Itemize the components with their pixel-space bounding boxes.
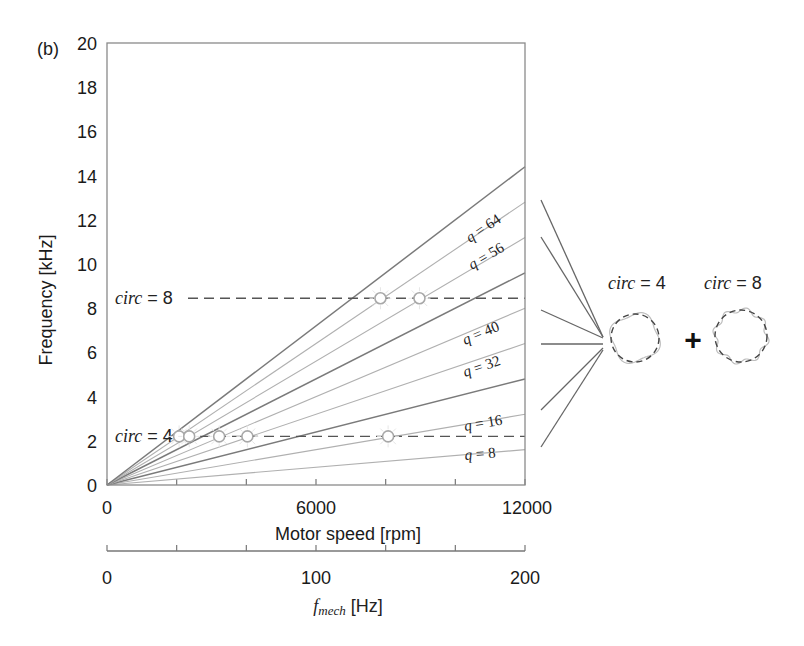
y-tick-label: 8 <box>87 299 97 319</box>
intersection-marker <box>369 287 391 309</box>
x2-tick-label: 200 <box>510 568 540 588</box>
mode-shape-circ8-icon <box>713 308 769 364</box>
intersection-marker <box>178 425 200 447</box>
series-label-q8: q = 8 <box>464 444 496 463</box>
x2-tick-label: 100 <box>301 568 331 588</box>
series-line-q56 <box>107 237 525 485</box>
y-tick-label: 16 <box>77 122 97 142</box>
y-tick-label: 4 <box>87 388 97 408</box>
series-label-q40: q = 40 <box>460 318 502 348</box>
x-tick-label: 6000 <box>296 498 336 518</box>
intersection-marker <box>408 287 430 309</box>
series-labels: q = 8q = 16q = 32q = 40q = 56q = 64 <box>460 210 507 463</box>
y-tick-label: 6 <box>87 343 97 363</box>
y-tick-label: 14 <box>77 167 97 187</box>
mode-shape-label-circ8: circ = 8 <box>704 273 762 293</box>
y-axis-title: Frequency [kHz] <box>36 234 56 365</box>
x-axis-title: Motor speed [rpm] <box>275 524 421 544</box>
secondary-x-axis: 0100200 <box>102 545 540 588</box>
y-tick-label: 12 <box>77 211 97 231</box>
x2-tick-label: 0 <box>102 568 112 588</box>
y-tick-label: 0 <box>87 476 97 496</box>
series-line-q16 <box>107 414 525 485</box>
y-tick-label: 18 <box>77 78 97 98</box>
y-tick-label: 2 <box>87 432 97 452</box>
chart-canvas: (b) Frequency [kHz] 02468101214161820 06… <box>0 0 804 646</box>
y-tick-label: 20 <box>77 34 97 54</box>
series-label-q32: q = 32 <box>461 352 503 379</box>
intersection-marker <box>236 425 258 447</box>
x-tick-label: 0 <box>102 498 112 518</box>
panel-label: (b) <box>37 39 59 59</box>
plus-icon: + <box>684 323 702 356</box>
y-axis-ticks: 02468101214161820 <box>77 34 97 496</box>
mode-shape-circ4-icon <box>610 313 661 364</box>
intersection-marker <box>208 425 230 447</box>
series-label-q16: q = 16 <box>463 412 504 434</box>
mode-fan-lines <box>541 200 603 447</box>
secondary-x-axis-title: fmech [Hz] <box>313 596 382 618</box>
x-tick-label: 12000 <box>502 498 552 518</box>
circ-line-label: circ = 4 <box>115 426 173 446</box>
mode-shape-label-circ4: circ = 4 <box>608 273 666 293</box>
y-tick-label: 10 <box>77 255 97 275</box>
intersection-marker <box>377 425 399 447</box>
circ-line-label: circ = 8 <box>115 288 173 308</box>
intersection-markers <box>168 287 430 447</box>
